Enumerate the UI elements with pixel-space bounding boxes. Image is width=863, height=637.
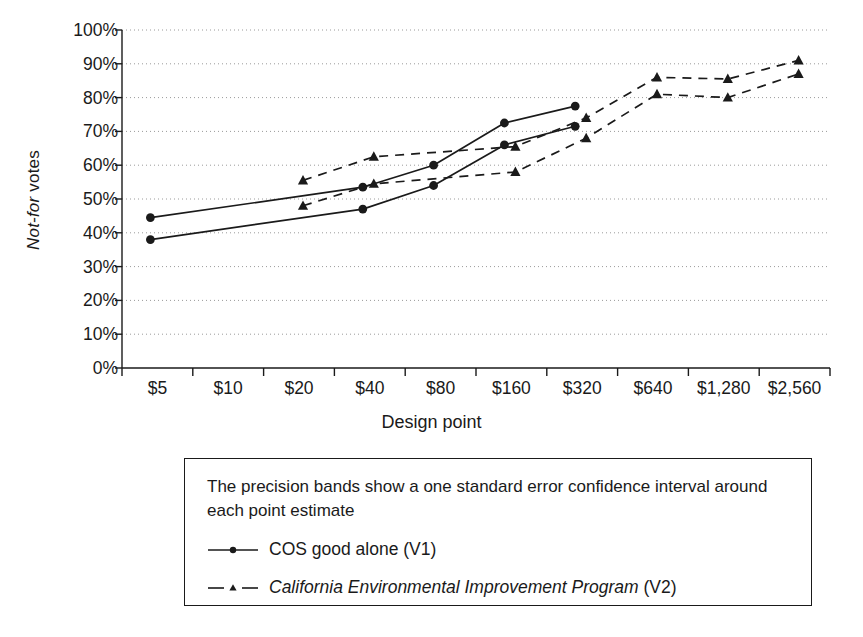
x-tick-label: $160 xyxy=(492,378,531,399)
legend-entry-v2: California Environmental Improvement Pro… xyxy=(207,577,677,598)
legend: The precision bands show a one standard … xyxy=(184,458,812,606)
legend-entry-v1: COS good alone (V1) xyxy=(207,539,436,560)
data-point-marker xyxy=(510,167,520,176)
x-tick-label: $2,560 xyxy=(768,378,822,399)
data-point-marker xyxy=(429,181,438,190)
x-tick-label: $640 xyxy=(634,378,673,399)
legend-key-dashed-triangle-icon xyxy=(207,581,259,595)
x-tick-label: $40 xyxy=(355,378,384,399)
x-axis-title: Design point xyxy=(0,412,863,433)
axis-lines xyxy=(115,30,830,376)
data-point-marker xyxy=(581,113,591,122)
data-point-marker xyxy=(794,55,804,65)
data-point-marker xyxy=(358,183,367,192)
data-point-marker xyxy=(146,213,155,222)
legend-label-v2-italic: California Environmental Improvement Pro… xyxy=(269,577,639,597)
x-axis-tick-labels: $5$10$20$40$80$160$320$640$1,280$2,560 xyxy=(100,378,860,406)
legend-key-solid-circle-icon xyxy=(207,543,259,557)
gridlines xyxy=(122,30,830,334)
legend-label-v1: COS good alone (V1) xyxy=(269,539,436,560)
data-point-marker xyxy=(369,151,379,161)
band-upper-line xyxy=(303,60,799,180)
x-tick-label: $20 xyxy=(284,378,313,399)
legend-note: The precision bands show a one standard … xyxy=(207,475,787,523)
x-tick-label: $5 xyxy=(148,378,167,399)
data-point-marker xyxy=(794,69,804,79)
data-point-marker xyxy=(429,161,438,170)
data-point-marker xyxy=(358,205,367,214)
data-point-marker xyxy=(652,89,662,99)
band-upper-line xyxy=(150,106,575,218)
x-tick-label: $80 xyxy=(426,378,455,399)
data-point-marker xyxy=(581,133,591,142)
series-layer xyxy=(146,55,804,244)
x-tick-label: $1,280 xyxy=(697,378,751,399)
data-point-marker xyxy=(500,119,509,128)
legend-label-v2-plain: (V2) xyxy=(639,577,677,597)
legend-label-v2: California Environmental Improvement Pro… xyxy=(269,577,677,598)
x-tick-label: $320 xyxy=(563,378,602,399)
chart-figure: Not-for votes 100%90%80%70%60%50%40%30%2… xyxy=(0,0,863,637)
data-point-marker xyxy=(146,235,155,244)
data-point-marker xyxy=(652,72,662,82)
data-point-marker xyxy=(571,102,580,111)
x-tick-label: $10 xyxy=(214,378,243,399)
